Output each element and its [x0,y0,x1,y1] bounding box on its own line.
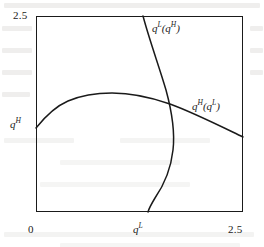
x-axis-variable-superscript: L [139,221,143,230]
curve-label-qh-of-ql: qH(qL) [192,101,220,112]
curve-qh-close-paren: ) [216,100,220,112]
y-axis-variable-label: qH [10,119,21,130]
x-axis-max-tick-label: 2.5 [228,224,242,235]
reaction-curves-figure: 2.5 0 2.5 qH qL qL(qH) qH(qL) [0,0,264,247]
curve-ql-of-qh [143,16,174,212]
curve-canvas [0,0,264,247]
y-axis-max-tick-label: 2.5 [13,10,27,21]
curve-ql-close-paren: ) [176,22,180,34]
curve-label-ql-of-qh: qL(qH) [152,23,180,34]
x-axis-variable-label: qL [133,224,143,235]
origin-tick-label: 0 [28,224,34,235]
y-axis-variable-superscript: H [16,116,21,125]
